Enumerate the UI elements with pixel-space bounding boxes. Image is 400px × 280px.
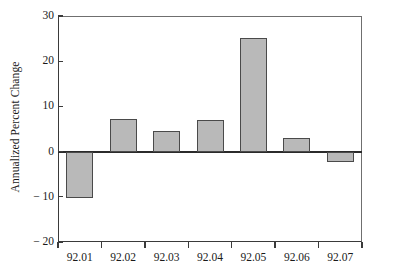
y-axis-tick-mark <box>58 241 63 242</box>
x-axis-tick-mark <box>231 242 232 248</box>
y-axis-tick-mark <box>58 151 63 152</box>
y-axis-tick-label: 0 <box>10 146 54 158</box>
x-axis-tick-mark <box>188 242 189 248</box>
y-axis-tick-label: − 10 <box>10 191 54 203</box>
y-axis-tick-labels: 3020100− 10− 20 <box>4 0 54 280</box>
bar-92.06 <box>283 138 310 152</box>
x-axis-tick-mark <box>57 242 58 248</box>
x-axis-tick-mark <box>101 242 102 248</box>
y-axis-tick-label: − 20 <box>10 236 54 248</box>
x-axis-tick-label: 92.07 <box>312 251 368 263</box>
bar-92.04 <box>197 120 224 151</box>
y-axis-tick-label: 10 <box>10 100 54 112</box>
x-axis-tick-mark <box>361 242 362 248</box>
x-axis-tick-mark <box>318 242 319 248</box>
bar-92.02 <box>110 119 137 152</box>
y-axis-tick-mark <box>58 196 63 197</box>
y-axis-tick-mark <box>58 61 63 62</box>
bar-92.07 <box>327 152 354 162</box>
y-axis-tick-label: 20 <box>10 55 54 67</box>
x-axis-tick-mark <box>274 242 275 248</box>
y-axis-tick-mark <box>58 106 63 107</box>
bar-92.01 <box>66 152 93 199</box>
y-axis-tick-mark <box>58 15 63 16</box>
plot-area <box>58 16 362 242</box>
bar-92.05 <box>240 38 267 152</box>
bar-92.03 <box>153 131 180 152</box>
y-axis-tick-label: 30 <box>10 10 54 22</box>
bar-chart-figure: Annualized Percent Change 3020100− 10− 2… <box>0 0 400 280</box>
x-axis-tick-mark <box>144 242 145 248</box>
